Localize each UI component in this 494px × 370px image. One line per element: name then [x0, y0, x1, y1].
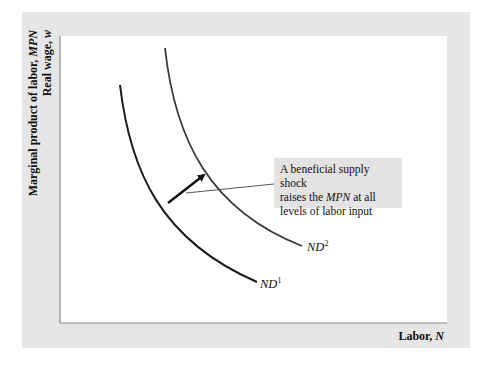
annotation-line3: levels of labor input: [280, 204, 396, 218]
shift-arrow: [168, 175, 204, 203]
label-nd1-sup: 1: [277, 276, 281, 285]
label-nd2: ND2: [307, 239, 328, 255]
label-nd1: ND1: [260, 276, 281, 292]
curve-nd1: [120, 85, 257, 282]
y-axis-label-var2: w: [40, 30, 54, 38]
diagram-canvas: [0, 0, 494, 370]
annotation-line1: A beneficial supply shock: [280, 162, 396, 190]
annotation-line2-pre: raises the: [280, 191, 326, 203]
y-axis-label-var1: MPN: [26, 30, 40, 57]
x-axis-label-var: N: [435, 329, 444, 343]
label-nd2-name: ND: [307, 240, 324, 254]
y-axis-label: Marginal product of labor, MPN Real wage…: [26, 30, 50, 280]
callout-leader-line: [186, 184, 274, 193]
annotation-callout: A beneficial supply shock raises the MPN…: [274, 158, 402, 208]
annotation-line2-var: MPN: [326, 191, 350, 203]
label-nd1-name: ND: [260, 277, 277, 291]
annotation-line2-post: at all: [350, 191, 376, 203]
y-axis-label-line2: Real wage,: [40, 38, 54, 96]
x-axis-label: Labor, N: [398, 329, 444, 344]
x-axis-label-text: Labor,: [398, 329, 435, 343]
label-nd2-sup: 2: [324, 239, 328, 248]
y-axis-label-line1: Marginal product of labor,: [26, 57, 40, 197]
